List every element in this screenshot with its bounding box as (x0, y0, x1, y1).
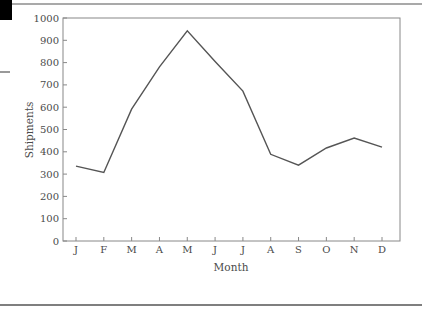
x-axis-title: Month (214, 261, 249, 273)
y-axis-title: Shipments (23, 102, 35, 159)
y-tick-label: 100 (40, 213, 59, 224)
plot-area: 01002003004005006007008009001000JFMAMJJA… (34, 13, 400, 256)
x-tick-label: S (295, 244, 302, 255)
x-tick-label: J (73, 244, 78, 255)
x-tick-label: A (155, 244, 164, 255)
y-tick-label: 400 (40, 146, 59, 157)
x-tick-label: A (266, 244, 275, 255)
x-tick-label: J (240, 244, 245, 255)
line-chart: 01002003004005006007008009001000JFMAMJJA… (0, 0, 422, 317)
x-tick-label: F (100, 244, 107, 255)
x-tick-label: J (212, 244, 217, 255)
y-tick-label: 300 (40, 169, 59, 180)
y-tick-label: 1000 (34, 13, 59, 24)
x-tick-label: O (322, 244, 330, 255)
plot-frame (63, 18, 400, 241)
x-tick-label: M (182, 244, 192, 255)
y-tick-label: 500 (40, 124, 59, 135)
y-tick-label: 900 (40, 35, 59, 46)
y-tick-label: 0 (53, 236, 59, 247)
x-tick-label: D (378, 244, 386, 255)
y-tick-label: 800 (40, 57, 59, 68)
data-line (76, 31, 382, 173)
corner-marker (0, 0, 12, 20)
y-tick-label: 200 (40, 191, 59, 202)
x-tick-label: N (350, 244, 359, 255)
y-tick-label: 600 (40, 102, 59, 113)
y-tick-label: 700 (40, 79, 59, 90)
x-tick-label: M (127, 244, 137, 255)
